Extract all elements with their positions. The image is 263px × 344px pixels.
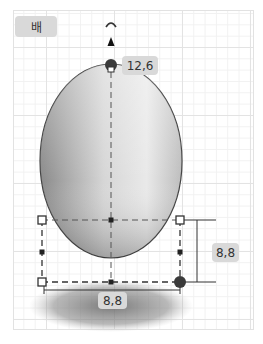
corner-handle-bottom-right[interactable] [174, 276, 186, 288]
shape-name-label[interactable]: 배 [15, 16, 57, 37]
width-dimension-label[interactable]: 8,8 [98, 292, 127, 309]
scene [0, 0, 263, 344]
depth-dimension-label[interactable]: 8,8 [212, 243, 239, 262]
corner-handle-top-left[interactable] [38, 216, 46, 224]
rotate-icon[interactable] [106, 23, 116, 27]
center-handle[interactable] [109, 218, 114, 223]
edge-handle-left[interactable] [40, 250, 45, 255]
height-dimension-label[interactable]: 12,6 [122, 56, 158, 75]
edge-handle-right[interactable] [178, 250, 183, 255]
arrow-up-icon[interactable] [108, 37, 115, 46]
corner-handle-top-right[interactable] [176, 216, 184, 224]
edge-handle-bottom[interactable] [109, 280, 114, 285]
corner-handle-bottom-left[interactable] [38, 278, 46, 286]
